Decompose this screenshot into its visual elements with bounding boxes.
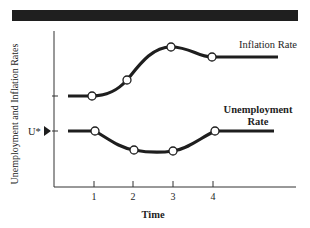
inflation-rate-line bbox=[68, 47, 278, 96]
x-ticks bbox=[94, 181, 213, 187]
x-tick-label-1: 1 bbox=[92, 191, 97, 202]
x-axis-label: Time bbox=[141, 209, 164, 220]
unemployment-point-3 bbox=[169, 147, 177, 155]
figure: 1 2 3 4 Time Unemployment and Inflation … bbox=[0, 0, 310, 228]
inflation-rate-label: Inflation Rate bbox=[239, 39, 297, 50]
x-tick-label-4: 4 bbox=[211, 191, 216, 202]
u-star-arrow-icon bbox=[44, 126, 51, 136]
unemployment-rate-label-line1: Unemployment bbox=[224, 104, 293, 115]
top-banner bbox=[12, 10, 298, 21]
y-axis-label: Unemployment and Inflation Rates bbox=[9, 43, 20, 184]
chart-svg: 1 2 3 4 Time Unemployment and Inflation … bbox=[0, 0, 310, 228]
unemployment-point-2 bbox=[130, 146, 138, 154]
inflation-point-3 bbox=[167, 43, 175, 51]
x-tick-label-2: 2 bbox=[131, 191, 136, 202]
x-tick-label-3: 3 bbox=[171, 191, 176, 202]
unemployment-point-4 bbox=[211, 127, 219, 135]
inflation-point-2 bbox=[123, 76, 131, 84]
inflation-point-1 bbox=[88, 92, 96, 100]
unemployment-point-1 bbox=[91, 127, 99, 135]
u-star-label: U* bbox=[28, 126, 41, 137]
unemployment-rate-label-line2: Rate bbox=[248, 116, 269, 127]
inflation-point-4 bbox=[208, 53, 216, 61]
